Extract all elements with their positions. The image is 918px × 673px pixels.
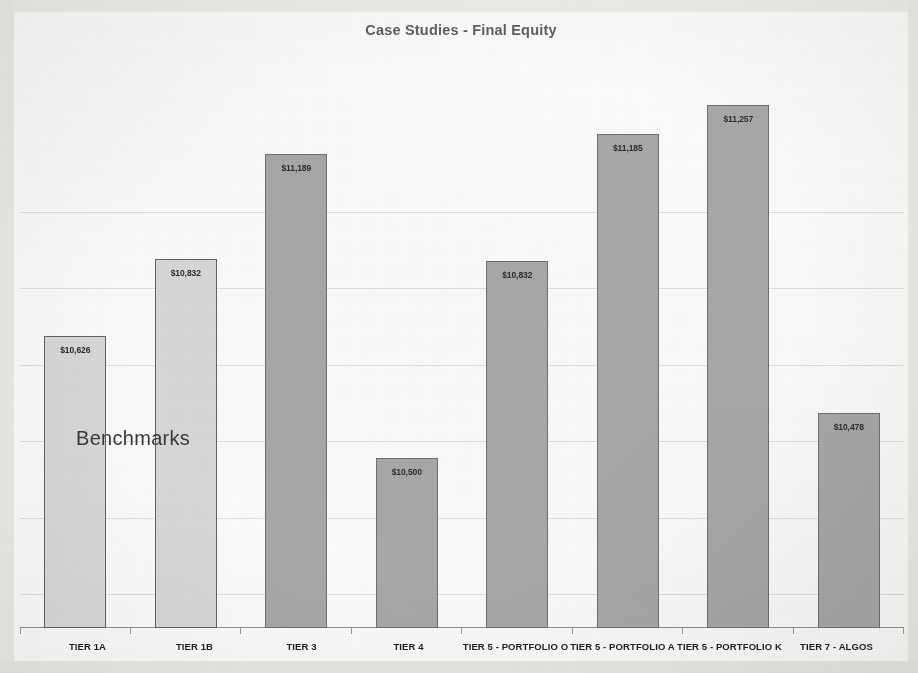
category-label: TIER 1B xyxy=(141,640,248,653)
bar-value-label: $10,626 xyxy=(60,345,90,355)
bar-slot: $11,189 xyxy=(241,60,352,628)
bar-slot: $10,478 xyxy=(794,60,905,628)
category-axis-labels: TIER 1ATIER 1BTIER 3TIER 4TIER 5 - PORTF… xyxy=(34,640,890,653)
benchmarks-annotation: Benchmarks xyxy=(76,427,190,450)
bar-value-label: $11,185 xyxy=(613,143,643,153)
bar-value-label: $11,189 xyxy=(281,163,311,173)
page-margin-bottom xyxy=(0,661,918,673)
bar-slot: $10,832 xyxy=(462,60,573,628)
bar-slot: $10,500 xyxy=(352,60,463,628)
bar[interactable]: $10,626 xyxy=(44,336,106,628)
bar-slot: $10,832 xyxy=(131,60,242,628)
chart-title: Case Studies - Final Equity xyxy=(14,22,908,38)
bar[interactable]: $11,257 xyxy=(707,105,769,628)
category-label: TIER 5 - PORTFOLIO O xyxy=(462,640,569,653)
bar-value-label: $10,832 xyxy=(171,268,201,278)
bar-slot: $11,257 xyxy=(683,60,794,628)
page-margin-top xyxy=(0,0,918,12)
axis-tick xyxy=(352,628,463,634)
bar[interactable]: $11,189 xyxy=(265,154,327,628)
bar[interactable]: $10,832 xyxy=(486,261,548,628)
axis-tick xyxy=(241,628,352,634)
bar[interactable]: $10,500 xyxy=(376,458,438,628)
axis-tick xyxy=(20,628,131,634)
axis-ticks xyxy=(20,628,904,634)
bar-slot: $11,185 xyxy=(573,60,684,628)
bar[interactable]: $11,185 xyxy=(597,134,659,628)
plot-area: $10,626$10,832$11,189$10,500$10,832$11,1… xyxy=(14,60,908,628)
chart-page: Case Studies - Final Equity $10,626$10,8… xyxy=(0,0,918,673)
bar-slot: $10,626 xyxy=(20,60,131,628)
bar-value-label: $10,500 xyxy=(392,467,422,477)
category-label: TIER 4 xyxy=(355,640,462,653)
bar-value-label: $10,832 xyxy=(502,270,532,280)
page-margin-left xyxy=(0,0,14,673)
category-label: TIER 3 xyxy=(248,640,355,653)
axis-tick xyxy=(462,628,573,634)
bar-value-label: $11,257 xyxy=(723,114,753,124)
axis-tick xyxy=(131,628,242,634)
bar-value-label: $10,478 xyxy=(834,422,864,432)
category-label: TIER 5 - PORTFOLIO A xyxy=(569,640,676,653)
axis-tick xyxy=(794,628,905,634)
axis-tick xyxy=(683,628,794,634)
category-label: TIER 1A xyxy=(34,640,141,653)
bar[interactable]: $10,478 xyxy=(818,413,880,628)
category-label: TIER 7 - ALGOS xyxy=(783,640,890,653)
category-label: TIER 5 - PORTFOLIO K xyxy=(676,640,783,653)
axis-tick xyxy=(573,628,684,634)
chart-area: Case Studies - Final Equity $10,626$10,8… xyxy=(14,12,908,661)
bar-series: $10,626$10,832$11,189$10,500$10,832$11,1… xyxy=(20,60,904,628)
page-margin-right xyxy=(908,0,918,673)
